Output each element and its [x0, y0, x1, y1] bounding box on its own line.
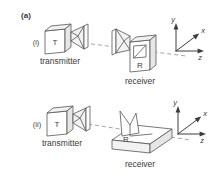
row-i-axis-y-label: y [170, 15, 176, 24]
row-ii-receiver-tapered-fin [120, 111, 139, 136]
row-ii-axis-y-label: y [172, 98, 178, 107]
row-ii-receiver-caption: receiver [125, 159, 155, 169]
row-ii-axis-z-label: z [199, 136, 204, 145]
row-i-transmitter: T transmitter [40, 24, 88, 66]
row-i-receiver: R receiver [112, 29, 156, 86]
row-ii-transmitter-box-label: T [55, 120, 60, 129]
row-ii-transmitter-caption: transmitter [42, 138, 82, 148]
row-i-axis-x-line [176, 36, 196, 51]
row-ii-transmitter-horn-aperture [86, 106, 90, 131]
row-ii-axis-x-arrowhead [195, 117, 202, 123]
row-ii-axis-x-line [178, 119, 198, 134]
row-i-transmitter-box-label: T [53, 38, 58, 47]
row-ii-receiver-box-label: R [123, 135, 129, 144]
row-ii-transmitter: T transmitter [42, 106, 90, 148]
row-ii-index-label: (ii) [33, 120, 42, 129]
row-ii-axis-triad: y x z [172, 98, 207, 145]
row-ii-receiver: R receiver [112, 111, 172, 169]
row-i-axis-z-label: z [197, 53, 202, 62]
antenna-setup-diagram: (a) (i) T [0, 0, 215, 177]
row-i: (i) T transmitter [33, 15, 205, 86]
row-i-receiver-box-side [150, 35, 156, 70]
row-ii-axis-x-label: x [202, 109, 207, 118]
row-i-receiver-caption: receiver [125, 76, 155, 86]
panel-label: (a) [21, 11, 31, 20]
figure-root: (a) (i) T [0, 0, 215, 177]
row-i-receiver-horn-aperture [112, 29, 116, 55]
row-i-axis-x-label: x [200, 26, 205, 35]
row-i-transmitter-box-side [65, 24, 71, 52]
row-ii-transmitter-box-side [67, 106, 73, 134]
row-i-receiver-box-label: R [137, 61, 143, 70]
row-i-transmitter-horn-aperture [84, 24, 88, 49]
row-i-index-label: (i) [33, 38, 40, 47]
row-ii: (ii) T transmitter [33, 98, 207, 169]
row-i-axis-x-arrowhead [193, 34, 200, 40]
row-i-transmitter-caption: transmitter [40, 56, 80, 66]
